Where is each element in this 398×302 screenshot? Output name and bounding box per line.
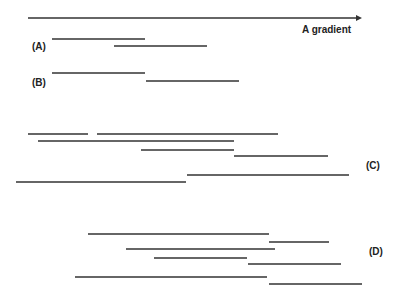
panel-label-d: (D) <box>369 246 383 257</box>
species-range-segments <box>16 39 362 284</box>
panel-label-b: (B) <box>32 77 46 88</box>
arrowhead-icon <box>356 15 362 21</box>
gradient-diagram <box>0 0 398 302</box>
panel-label-c: (C) <box>366 160 380 171</box>
gradient-axis-arrow <box>28 15 362 21</box>
axis-label: A gradient <box>302 24 351 35</box>
panel-label-a: (A) <box>32 41 46 52</box>
